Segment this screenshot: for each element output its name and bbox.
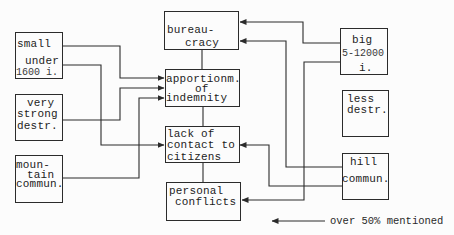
box-hill-line-2: commun.: [342, 173, 390, 185]
box-lack-of-contact-line-2: contact to: [167, 139, 235, 151]
box-big-line-3: i.: [359, 62, 373, 74]
edge-under1600-to-lack-of-contact: [63, 65, 164, 145]
box-lack-of-contact-line-3: citizens: [167, 151, 221, 163]
edge-hill-to-bureaucracy: [240, 41, 342, 167]
legend-label: over 50% mentioned: [330, 215, 443, 227]
box-big-line-2: 5-12000: [342, 48, 384, 60]
box-mountain-line-3: commun.: [16, 178, 64, 190]
edge-small-to-apportionment: [63, 46, 164, 78]
box-big-line-1: big: [352, 34, 372, 46]
box-very-strong-line-3: destr.: [17, 120, 58, 132]
edge-mountain-to-apportionment: [63, 98, 164, 178]
box-apportionment-line-3: indemnity: [166, 92, 227, 104]
box-personal-conflicts-line-2: conflicts: [175, 196, 236, 208]
edge-big-to-bureaucracy: [240, 22, 341, 43]
box-small-line-2: under: [25, 55, 59, 67]
box-small-line-1: small: [17, 38, 51, 50]
box-small-line-3: 1600 i.: [16, 67, 58, 79]
edge-big-to-personal-conflicts: [242, 62, 341, 200]
box-very-strong-line-2: strong: [17, 108, 58, 120]
box-less-destr-line-2: destr.: [347, 104, 388, 116]
box-hill-line-1: hill: [350, 156, 377, 168]
box-bureaucracy-line-1: bureau-: [167, 24, 215, 36]
edge-very-strong-to-apportionment: [63, 88, 164, 120]
edge-hill-to-lack-of-contact: [240, 145, 342, 186]
box-bureaucracy-line-2: cracy: [185, 37, 219, 49]
